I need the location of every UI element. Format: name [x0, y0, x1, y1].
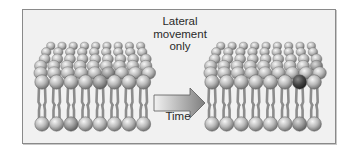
lipid-head-lower — [219, 117, 233, 131]
lipid-tail — [117, 87, 119, 106]
lipid-tail — [97, 87, 99, 106]
lipid-head-upper — [78, 75, 92, 89]
lipid-head-lower — [249, 117, 263, 131]
lipid-head-upper — [205, 75, 219, 89]
lipid-tail — [83, 104, 84, 119]
lipid-tail — [54, 104, 55, 119]
lipid-head-lower — [278, 117, 292, 131]
lipid-head-lower — [122, 117, 136, 131]
lipid-tail — [238, 87, 240, 106]
lateral-movement-label: Lateral movement only — [145, 15, 215, 53]
lipid-head-lower — [107, 117, 121, 131]
lipid-head-upper — [136, 75, 150, 89]
lipid-tail — [131, 87, 133, 106]
lipid-head-lower — [35, 117, 49, 131]
lipid-tail — [287, 104, 288, 119]
lipid-head-upper — [307, 75, 321, 89]
lipid-head-upper — [278, 75, 292, 89]
lipid-tail — [112, 104, 113, 119]
lipid-head-lower — [136, 117, 150, 131]
lipid-head-upper — [219, 75, 233, 89]
bilayer-after — [204, 42, 327, 131]
lipid-head-upper — [263, 75, 277, 89]
lipid-tail — [146, 87, 148, 106]
lipid-head-upper — [249, 75, 263, 89]
lipid-head-upper — [234, 75, 248, 89]
lipid-tail — [102, 87, 104, 106]
lipid-tail — [316, 104, 317, 119]
lipid-head-lower — [307, 117, 321, 131]
lipid-tail — [131, 104, 132, 119]
lateral-line-1: Lateral — [145, 15, 215, 28]
lipid-tail — [39, 87, 41, 106]
lipid-tail — [68, 104, 69, 119]
lipid-head-lower — [234, 117, 248, 131]
lipid-tail — [296, 87, 298, 106]
lipid-tail — [97, 104, 98, 119]
lipid-tail — [229, 104, 230, 119]
lipid-tail — [243, 104, 244, 119]
lipid-tail — [272, 104, 273, 119]
lipid-tail — [214, 87, 216, 106]
lipid-tail — [209, 87, 211, 106]
lipid-tail — [140, 87, 142, 106]
lipid-tail — [111, 87, 113, 106]
lipid-tail — [267, 87, 269, 106]
lipid-tail — [73, 87, 75, 106]
lipid-tail — [88, 104, 89, 119]
lipid-tail — [297, 104, 298, 119]
lipid-tail — [39, 104, 40, 119]
lipid-head-lower — [64, 117, 78, 131]
lipid-tail — [141, 104, 142, 119]
lipid-tail — [126, 104, 127, 119]
lipid-tail — [287, 87, 289, 106]
lipid-tail — [243, 87, 245, 106]
lipid-tail — [272, 87, 274, 106]
lipid-head-lower — [292, 117, 306, 131]
lipid-head-lower — [263, 117, 277, 131]
lipid-tail — [258, 104, 259, 119]
lipid-tail — [223, 87, 225, 106]
lipid-tail — [267, 104, 268, 119]
lipid-tail — [316, 87, 318, 106]
lipid-head-lower — [93, 117, 107, 131]
lipid-tail — [53, 87, 55, 106]
lipid-tail — [311, 87, 313, 106]
lipid-head-lower — [205, 117, 219, 131]
lipid-tail — [68, 87, 70, 106]
lipid-tail — [73, 104, 74, 119]
lipid-tail — [146, 104, 147, 119]
lipid-tail — [117, 104, 118, 119]
lipid-tail — [59, 104, 60, 119]
lipid-tail — [59, 87, 61, 106]
lipid-tail — [102, 104, 103, 119]
lateral-line-3: only — [145, 40, 215, 53]
lipid-head-lower — [78, 117, 92, 131]
lipid-tail — [126, 87, 128, 106]
lipid-head-upper — [35, 75, 49, 89]
lipid-tail — [311, 104, 312, 119]
lipid-tail — [214, 104, 215, 119]
time-label: Time — [158, 110, 198, 123]
lipid-tail — [282, 104, 283, 119]
lipid-tail — [238, 104, 239, 119]
lipid-tail — [82, 87, 84, 106]
lipid-head-upper — [49, 75, 63, 89]
bilayer-before — [34, 42, 156, 131]
lipid-head-upper — [64, 75, 78, 89]
marked-lipid-head — [93, 75, 107, 89]
lipid-tail — [209, 104, 210, 119]
lipid-tail — [258, 87, 260, 106]
lipid-tail — [44, 87, 46, 106]
lipid-tail — [252, 87, 254, 106]
lipid-tail — [88, 87, 90, 106]
lipid-tail — [302, 87, 304, 106]
lipid-tail — [253, 104, 254, 119]
lipid-tail — [229, 87, 231, 106]
lipid-tail — [302, 104, 303, 119]
lateral-line-2: movement — [145, 28, 215, 41]
lipid-tail — [282, 87, 284, 106]
lipid-head-upper — [107, 75, 121, 89]
lipid-tail — [224, 104, 225, 119]
marked-lipid-head — [292, 75, 306, 89]
